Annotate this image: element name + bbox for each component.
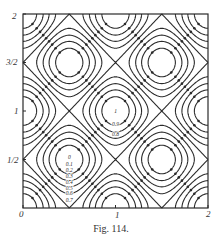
contour-marker-dot	[54, 47, 57, 50]
contour-marker-dot	[170, 148, 173, 151]
contour-marker-dot	[97, 189, 100, 192]
contour-marker-dot	[181, 40, 184, 43]
contour-marker-dot	[82, 47, 85, 50]
contour-marker-dot	[190, 128, 193, 131]
contour-marker-dot	[147, 144, 150, 147]
contour-marker-dot	[143, 79, 146, 82]
contour-marker-dot	[97, 92, 100, 95]
contour-value-label: 1	[114, 108, 117, 114]
contour-marker-dot	[77, 168, 80, 171]
contour-marker-dot	[140, 179, 143, 182]
contour-marker-dot	[82, 76, 85, 79]
contour-marker-dot	[48, 40, 51, 43]
contour-marker-dot	[134, 89, 137, 92]
contour-marker-dot	[45, 134, 48, 137]
contour-marker-dot	[39, 92, 42, 95]
contour-marker-dot	[143, 43, 146, 46]
contour-marker-dot	[88, 40, 91, 43]
contour-marker-dot	[85, 176, 88, 179]
contour-marker-dot	[124, 197, 127, 200]
contour-marker-dot	[82, 173, 85, 176]
contour-marker-dot	[42, 89, 45, 92]
contour-marker-dot	[91, 37, 94, 40]
y-tick-label-1-2: 1/2	[7, 156, 19, 165]
contour-marker-dot	[187, 186, 190, 189]
contour-marker-dot	[31, 197, 34, 200]
contour-marker-dot	[39, 189, 42, 192]
contour-marker-dot	[54, 173, 57, 176]
contour-marker-dot	[137, 182, 140, 185]
contour-marker-dot	[197, 23, 200, 26]
contour-marker-dot	[128, 192, 131, 195]
contour-marker-dot	[101, 124, 104, 127]
x-tick-label-0: 0	[19, 210, 24, 219]
contour-marker-dot	[105, 100, 108, 103]
contour-marker-dot	[35, 95, 38, 98]
contour-marker-dot	[85, 43, 88, 46]
contour-marker-dot	[77, 51, 80, 54]
contour-marker-dot	[77, 71, 80, 74]
contour-marker-dot	[193, 124, 196, 127]
y-tick-label-3-2: 3/2	[6, 58, 18, 67]
contour-marker-dot	[128, 95, 131, 98]
contour-marker-dot	[105, 23, 108, 26]
contour-marker-dot	[190, 31, 193, 34]
contour-marker-dot	[178, 140, 181, 143]
contour-marker-dot	[174, 76, 177, 79]
contour-marker-dot	[85, 140, 88, 143]
contour-marker-dot	[51, 79, 54, 82]
contour-marker-dot	[174, 144, 177, 147]
contour-marker-dot	[82, 144, 85, 147]
contour-marker-dot	[77, 148, 80, 151]
contour-marker-dot	[170, 51, 173, 54]
contour-marker-dot	[174, 173, 177, 176]
contour-marker-dot	[197, 100, 200, 103]
contour-marker-dot	[151, 71, 154, 74]
contour-marker-dot	[181, 137, 184, 140]
contour-figure: 10.90.800.10.20.30.40.50.60.7 2 3/2 1 1/…	[0, 0, 222, 240]
contour-marker-dot	[85, 79, 88, 82]
contour-marker-dot	[39, 31, 42, 34]
contour-marker-dot	[131, 31, 134, 34]
contour-marker-dot	[48, 137, 51, 140]
contour-marker-dot	[94, 89, 97, 92]
contour-marker-dot	[170, 168, 173, 171]
contour-plot: 10.90.800.10.20.30.40.50.60.7	[0, 0, 222, 240]
contour-marker-dot	[54, 76, 57, 79]
contour-marker-dot	[190, 189, 193, 192]
contour-marker-dot	[42, 186, 45, 189]
contour-marker-dot	[51, 43, 54, 46]
contour-marker-dot	[94, 186, 97, 189]
contour-marker-dot	[140, 82, 143, 85]
contour-marker-dot	[45, 85, 48, 88]
contour-marker-dot	[58, 51, 61, 54]
contour-marker-dot	[94, 131, 97, 134]
contour-marker-dot	[124, 23, 127, 26]
contour-marker-dot	[147, 76, 150, 79]
contour-marker-dot	[101, 192, 104, 195]
contour-marker-dot	[178, 176, 181, 179]
contour-marker-dot	[178, 79, 181, 82]
contour-marker-dot	[35, 124, 38, 127]
contour-marker-dot	[58, 148, 61, 151]
contour-marker-dot	[143, 140, 146, 143]
contour-marker-dot	[88, 179, 91, 182]
contour-marker-dot	[181, 82, 184, 85]
contour-value-label: 0.6	[66, 190, 73, 196]
contour-marker-dot	[151, 51, 154, 54]
contour-marker-dot	[187, 131, 190, 134]
contour-marker-dot	[190, 92, 193, 95]
x-tick-label-1: 1	[115, 211, 120, 220]
contour-marker-dot	[147, 173, 150, 176]
contour-marker-dot	[35, 192, 38, 195]
contour-marker-dot	[91, 85, 94, 88]
contour-marker-dot	[35, 27, 38, 30]
contour-marker-dot	[128, 124, 131, 127]
contour-marker-dot	[51, 176, 54, 179]
contour-marker-dot	[134, 131, 137, 134]
contour-marker-dot	[45, 182, 48, 185]
contour-marker-dot	[140, 137, 143, 140]
contour-marker-dot	[184, 85, 187, 88]
contour-marker-dot	[31, 100, 34, 103]
contour-marker-dot	[31, 120, 34, 123]
